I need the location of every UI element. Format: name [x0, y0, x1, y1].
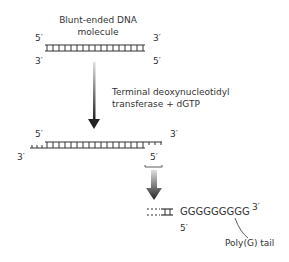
down-arrow-icon [146, 170, 162, 200]
tail-3prime-label: 3′ [252, 202, 260, 213]
reaction-line1: Terminal deoxynucleotidyl [112, 87, 230, 98]
step1-top-left-label: 5′ [35, 33, 43, 44]
down-arrow-icon [88, 62, 100, 129]
step2-bottom-right-label: 5′ [150, 152, 158, 163]
tailed-dna-ladder [30, 142, 162, 167]
step1-title-line2: molecule [58, 27, 138, 38]
diagram-graphics [0, 0, 289, 262]
step2-top-right-label: 3′ [170, 129, 178, 140]
tail-5prime-label: 5′ [180, 223, 188, 234]
poly-g-sequence: GGGGGGGGG [180, 206, 250, 217]
step2-bottom-left-label: 3′ [17, 152, 25, 163]
reaction-line2: transferase + dGTP [112, 99, 200, 110]
step2-top-left-label: 5′ [35, 129, 43, 140]
step1-title-line1: Blunt-ended DNA [58, 15, 138, 26]
step1-bottom-right-label: 5′ [153, 56, 161, 67]
step1-bottom-left-label: 3′ [35, 56, 43, 67]
step1-top-right-label: 3′ [153, 33, 161, 44]
poly-g-tail-callout: Poly(G) tail [225, 238, 274, 249]
blunt-dna-ladder [45, 45, 145, 51]
